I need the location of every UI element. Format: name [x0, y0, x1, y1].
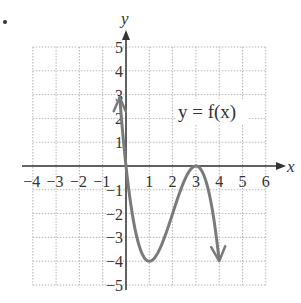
x-tick-label: 5 [239, 173, 247, 190]
x-tick-label: −3 [47, 173, 64, 190]
y-tick-label: −2 [106, 206, 123, 223]
x-tick-label: 6 [262, 173, 270, 190]
x-tick-label: 3 [192, 173, 200, 190]
x-tick-label: 4 [215, 173, 223, 190]
y-tick-label: 5 [115, 39, 123, 56]
x-tick-label: −2 [70, 173, 87, 190]
y-tick-label: −4 [106, 253, 123, 270]
axes: x y [22, 9, 295, 290]
y-axis-arrow-icon [122, 30, 130, 40]
y-tick-label: −1 [106, 182, 123, 199]
x-tick-label: −4 [23, 173, 40, 190]
x-tick-label: 2 [169, 173, 177, 190]
x-axis-label: x [286, 157, 295, 176]
function-label: y = f(x) [178, 101, 236, 123]
y-tick-label: −3 [106, 229, 123, 246]
y-tick-label: −5 [106, 277, 123, 294]
x-tick-label: 1 [145, 173, 153, 190]
graph: x y −4−3−2−112345654321−1−2−3−4−5 y = f(… [0, 0, 301, 303]
x-axis-arrow-icon [276, 162, 286, 170]
y-tick-label: 4 [115, 63, 123, 80]
y-axis-label: y [119, 9, 129, 28]
